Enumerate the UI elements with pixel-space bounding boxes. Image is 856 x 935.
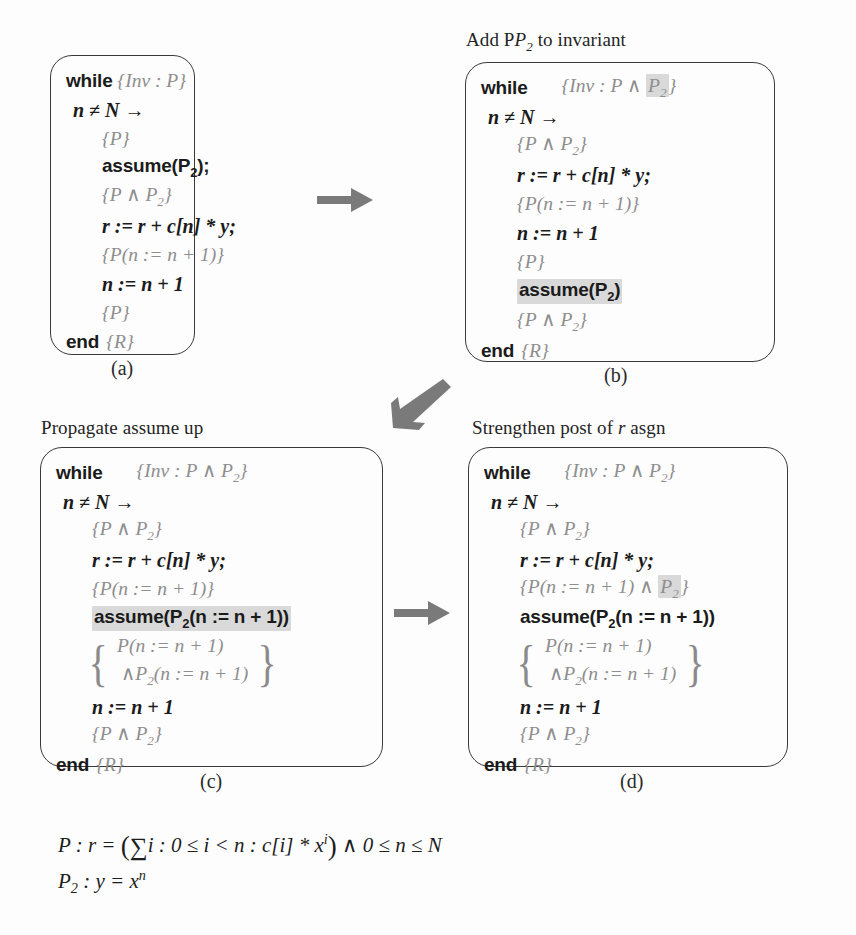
n-assignment: n := n + 1 (92, 697, 174, 717)
code-line: assume(P2(n := n + 1)) (56, 603, 374, 634)
code-line: n := n + 1 (56, 692, 374, 721)
caption-symbol: P2 (515, 29, 533, 50)
code-line: end {R} (481, 336, 766, 365)
panel-a-label: (a) (111, 357, 133, 380)
predicate-subscript: 2 (71, 880, 78, 896)
caption-text-end: asgn (625, 417, 665, 438)
loop-invariant: {Inv : P} (117, 71, 186, 91)
while-keyword: while (66, 71, 113, 90)
code-line: while {Inv : P} (66, 66, 186, 95)
loop-guard: n ≠ N → (491, 492, 563, 512)
n-assignment: n := n + 1 (520, 697, 602, 717)
assertion: {P ∧ P2} (517, 310, 587, 333)
end-keyword: end (66, 332, 99, 351)
while-keyword: while (56, 463, 103, 482)
code-line: r := r + c[n] * y; (66, 211, 186, 240)
assertion-strengthened: {P(n := n + 1) ∧ P2} (520, 577, 689, 600)
predicate-p2: P2 : y = xn (58, 861, 442, 903)
panel-b-code: while {Inv : P ∧ P2} n ≠ N → {P ∧ P2} r … (481, 73, 766, 365)
code-line: while {Inv : P ∧ P2} (481, 73, 766, 102)
arrow-c-to-d (392, 598, 454, 632)
summation-icon: ∑ (130, 833, 148, 860)
code-line: assume(P2) (481, 276, 766, 307)
assume-statement-highlighted: assume(P2) (517, 279, 622, 305)
exponent: n (139, 867, 146, 883)
postcondition: {R} (521, 341, 549, 361)
predicate-range: i : 0 ≤ i < n : c[i] * x (148, 833, 324, 857)
n-assignment: n := n + 1 (102, 274, 184, 294)
code-line: n := n + 1 (66, 269, 186, 298)
code-line: r := r + c[n] * y; (484, 545, 779, 574)
code-line: {P(n := n + 1)} (66, 240, 186, 269)
predicate-body: : r = (70, 833, 120, 857)
arrow-down-left-icon (385, 375, 455, 435)
assertion: {P ∧ P2} (520, 724, 590, 747)
code-line: n ≠ N → (56, 487, 374, 516)
panel-c-code: while {Inv : P ∧ P2} n ≠ N → {P ∧ P2} r … (56, 458, 374, 779)
assume-statement: assume(P2(n := n + 1)) (520, 607, 715, 631)
left-paren: ( (121, 831, 130, 861)
code-line: assume(P2); (66, 153, 186, 182)
predicate-name: P (58, 833, 70, 857)
while-keyword: while (484, 463, 531, 482)
assertion-brace-block: { P(n := n + 1) ∧P2(n := n + 1) } (484, 634, 779, 692)
code-line: r := r + c[n] * y; (481, 160, 766, 189)
arrow-right-icon (315, 185, 377, 215)
code-line: {P ∧ P2} (481, 131, 766, 160)
loop-invariant: {Inv : P ∧ P2} (562, 76, 677, 99)
loop-invariant: {Inv : P ∧ P2} (137, 461, 248, 484)
end-keyword: end (484, 755, 517, 774)
panel-c-box: while {Inv : P ∧ P2} n ≠ N → {P ∧ P2} r … (40, 447, 383, 767)
code-line: {P} (66, 124, 186, 153)
code-line: while {Inv : P ∧ P2} (484, 458, 779, 487)
panel-b-box: while {Inv : P ∧ P2} n ≠ N → {P ∧ P2} r … (465, 62, 775, 362)
arrow-b-to-c (385, 375, 455, 439)
postcondition: {R} (106, 332, 134, 352)
transformation-figure: while {Inv : P} n ≠ N → {P} assume(P2); … (0, 0, 856, 935)
loop-invariant: {Inv : P ∧ P2} (565, 461, 676, 484)
assertion-brace-block: { P(n := n + 1) ∧P2(n := n + 1) } (56, 634, 374, 692)
caption-text: Strengthen post of (472, 417, 618, 438)
arrow-a-to-b (315, 185, 377, 219)
code-line: r := r + c[n] * y; (56, 545, 374, 574)
code-line: n := n + 1 (484, 692, 779, 721)
assertion: {P ∧ P2} (517, 134, 587, 157)
code-line: n ≠ N → (66, 95, 186, 124)
code-line: assume(P2(n := n + 1)) (484, 603, 779, 634)
assertion: P(n := n + 1) (117, 632, 248, 660)
code-line: end {R} (66, 327, 186, 356)
code-line: {P} (66, 298, 186, 327)
n-assignment: n := n + 1 (517, 223, 599, 243)
while-keyword: while (481, 78, 528, 97)
code-line: {P ∧ P2} (484, 516, 779, 545)
postcondition: {R} (524, 755, 552, 775)
brace-rows: P(n := n + 1) ∧P2(n := n + 1) (117, 632, 248, 695)
assertion: {P ∧ P2} (102, 185, 172, 208)
code-line: {P(n := n + 1)} (56, 574, 374, 603)
predicate-name: P (58, 869, 71, 893)
code-line: {P ∧ P2} (56, 516, 374, 545)
code-line: n ≠ N → (481, 102, 766, 131)
predicate-body: : y = x (78, 869, 139, 893)
panel-a-box: while {Inv : P} n ≠ N → {P} assume(P2); … (50, 55, 195, 355)
code-line: n := n + 1 (481, 218, 766, 247)
end-keyword: end (56, 755, 89, 774)
panel-d-code: while {Inv : P ∧ P2} n ≠ N → {P ∧ P2} r … (484, 458, 779, 779)
r-assignment: r := r + c[n] * y; (92, 550, 226, 570)
assertion: P(n := n + 1) (545, 632, 676, 660)
arrow-right-icon (392, 598, 454, 628)
panel-c-caption: Propagate assume up (41, 417, 203, 439)
loop-guard: n ≠ N → (73, 100, 145, 120)
predicate-definitions: P : r = (∑i : 0 ≤ i < n : c[i] * xi) ∧ 0… (58, 825, 442, 903)
assume-statement-highlighted: assume(P2(n := n + 1)) (92, 606, 291, 632)
predicate-p: P : r = (∑i : 0 ≤ i < n : c[i] * xi) ∧ 0… (58, 825, 442, 861)
code-line: {P(n := n + 1)} (481, 189, 766, 218)
assertion: {P} (102, 129, 130, 149)
brace-rows: P(n := n + 1) ∧P2(n := n + 1) (545, 632, 676, 695)
panel-b-caption: Add PP2 to invariant (466, 29, 626, 55)
assertion: ∧P2(n := n + 1) (545, 660, 676, 695)
panel-a-code: while {Inv : P} n ≠ N → {P} assume(P2); … (66, 66, 186, 356)
code-line: {P ∧ P2} (56, 721, 374, 750)
code-line: {P ∧ P2} (66, 182, 186, 211)
caption-text-end: to invariant (533, 29, 626, 50)
